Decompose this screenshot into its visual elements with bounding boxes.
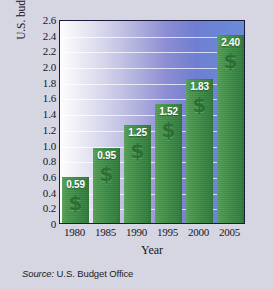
y-axis-tick: 1.0 — [30, 141, 56, 151]
y-axis-tick: 2.4 — [30, 31, 56, 41]
bar-chart-figure: U.S. budget (in trillions of dollars) 2.… — [0, 0, 274, 289]
bar: $1.83 — [186, 79, 213, 223]
x-axis-title: Year — [59, 243, 245, 258]
dollar-sign-icon: $ — [186, 95, 213, 115]
bar-slot: $1.25 — [124, 20, 151, 223]
y-axis-tick: 2.2 — [30, 46, 56, 56]
x-axis-tick: 2005 — [210, 226, 250, 239]
bar-slot: $2.40 — [217, 20, 244, 223]
bar-value-label: 1.83 — [186, 81, 213, 92]
bar-slot: $0.59 — [62, 20, 89, 223]
y-axis-tick: 1.2 — [30, 125, 56, 135]
y-axis-tick: 1.8 — [30, 78, 56, 88]
bar: $1.52 — [155, 104, 182, 223]
bar: $1.25 — [124, 125, 151, 223]
source-value: U.S. Budget Office — [57, 268, 134, 279]
dollar-sign-icon: $ — [155, 120, 182, 140]
y-axis-tick: 0 — [30, 219, 56, 229]
dollar-sign-icon: $ — [124, 141, 151, 161]
x-axis-tick-labels: 198019851990199520002005 — [59, 226, 245, 240]
source-note: Source: U.S. Budget Office — [22, 268, 133, 279]
bar-series: $0.59$0.95$1.25$1.52$1.83$2.40 — [60, 21, 244, 223]
bar-value-label: 0.95 — [93, 150, 120, 161]
source-prefix: Source: — [22, 268, 54, 279]
bar-value-label: 2.40 — [217, 37, 244, 48]
y-axis-tick: 0.4 — [30, 188, 56, 198]
bar-slot: $1.83 — [186, 20, 213, 223]
bar-value-label: 1.25 — [124, 127, 151, 138]
y-axis-tick: 2.0 — [30, 62, 56, 72]
y-axis-tick: 2.6 — [30, 15, 56, 25]
bar: $0.59 — [62, 177, 89, 223]
bar-value-label: 0.59 — [62, 179, 89, 190]
bar-value-label: 1.52 — [155, 106, 182, 117]
dollar-sign-icon: $ — [93, 164, 120, 184]
y-axis-tick: 1.4 — [30, 109, 56, 119]
y-axis-tick: 0.2 — [30, 203, 56, 213]
y-axis-title: U.S. budget (in trillions of dollars) — [13, 0, 29, 62]
bar: $0.95 — [93, 148, 120, 223]
bar: $2.40 — [217, 35, 244, 223]
plot-area: $0.59$0.95$1.25$1.52$1.83$2.40 — [59, 20, 245, 224]
y-axis-tick-labels: 2.62.42.22.01.81.61.41.21.00.80.60.40.20 — [30, 20, 56, 224]
dollar-sign-icon: $ — [217, 51, 244, 71]
y-axis-tick: 0.6 — [30, 172, 56, 182]
y-axis-tick: 1.6 — [30, 93, 56, 103]
y-axis-tick: 0.8 — [30, 156, 56, 166]
dollar-sign-icon: $ — [62, 193, 89, 213]
bar-slot: $1.52 — [155, 20, 182, 223]
bar-slot: $0.95 — [93, 20, 120, 223]
